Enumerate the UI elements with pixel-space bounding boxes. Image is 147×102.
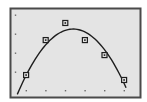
plot-frame: [11, 9, 141, 98]
x-tick-mark: [84, 90, 85, 91]
data-point-center: [65, 22, 67, 24]
x-tick-mark: [26, 90, 27, 91]
y-tick-mark: [15, 72, 16, 73]
data-point-center: [25, 74, 27, 76]
x-tick-mark: [65, 90, 66, 91]
data-point-center: [104, 54, 106, 56]
x-tick-mark: [45, 90, 46, 91]
y-tick-mark: [15, 53, 16, 54]
data-point-center: [84, 39, 86, 41]
y-tick-mark: [15, 15, 16, 16]
scatter-plot-with-regression: [0, 0, 147, 102]
x-tick-mark: [104, 90, 105, 91]
x-tick-mark: [124, 90, 125, 91]
y-tick-mark: [15, 34, 16, 35]
data-point-center: [123, 79, 125, 81]
data-point-center: [45, 39, 47, 41]
